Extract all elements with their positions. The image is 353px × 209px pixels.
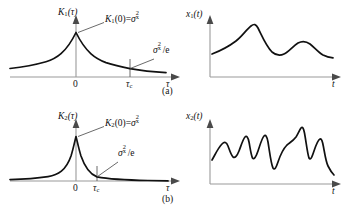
signal-svg-b bbox=[186, 106, 353, 206]
signal-plot-a: x1(t) t bbox=[186, 2, 353, 102]
correlation-curve-a bbox=[10, 33, 166, 73]
peak-leader-b bbox=[78, 127, 104, 137]
caption-a: (a) bbox=[162, 86, 173, 96]
signal-svg-a bbox=[186, 2, 353, 102]
level-leader-b bbox=[97, 162, 118, 177]
xaxis-label-sig-a: t bbox=[332, 80, 335, 90]
level-label-a: σ2x/e bbox=[153, 43, 169, 55]
correlation-curve-b bbox=[10, 137, 168, 181]
yaxis-label-a: K1(τ) bbox=[58, 8, 77, 18]
signal-curve-a bbox=[212, 24, 333, 57]
xaxis-label-sig-b: t bbox=[332, 187, 335, 197]
x-axis-arrow-a bbox=[171, 74, 180, 81]
yaxis-label-b: K2(τ) bbox=[58, 112, 77, 122]
yaxis-label-sig-b: x2(t) bbox=[186, 112, 202, 122]
level-label-b: σ2x/e bbox=[118, 146, 134, 158]
figure-row-b: K2(τ) K2(0)=σ2x σ2x/e 0 τc τ x2(t) t (b) bbox=[0, 106, 353, 206]
correlation-plot-a: K1(τ) K1(0)=σ2x σ2x/e 0 τc τ bbox=[8, 2, 188, 102]
origin-tick-label-b: 0 bbox=[73, 184, 78, 194]
y-axis-arrow-sig-b bbox=[207, 119, 214, 128]
peak-annotation-b: K2(0)=σ2x bbox=[105, 116, 141, 129]
yaxis-label-sig-a: x1(t) bbox=[186, 10, 202, 20]
figure-container: K1(τ) K1(0)=σ2x σ2x/e 0 τc τ x1(t) t (a) bbox=[0, 0, 353, 209]
peak-annotation-a: K1(0)=σ2x bbox=[105, 12, 141, 25]
level-leader-a bbox=[130, 59, 154, 69]
y-axis-arrow-sig-a bbox=[207, 15, 214, 24]
tau-c-label-b: τc bbox=[93, 184, 99, 194]
xaxis-label-b: τ bbox=[166, 184, 169, 194]
signal-curve-b bbox=[212, 127, 334, 175]
signal-plot-b: x2(t) t bbox=[186, 106, 353, 206]
tau-c-label-a: τc bbox=[126, 80, 132, 90]
peak-leader-a bbox=[78, 23, 104, 33]
correlation-plot-b: K2(τ) K2(0)=σ2x σ2x/e 0 τc τ bbox=[8, 106, 188, 206]
x-axis-arrow-b bbox=[171, 178, 180, 185]
origin-tick-label-a: 0 bbox=[73, 80, 78, 90]
caption-b: (b) bbox=[162, 194, 173, 204]
figure-row-a: K1(τ) K1(0)=σ2x σ2x/e 0 τc τ x1(t) t (a) bbox=[0, 2, 353, 102]
